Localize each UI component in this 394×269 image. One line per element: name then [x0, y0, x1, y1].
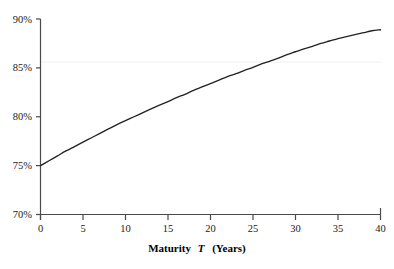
y-axis-tick-label: 90%: [13, 14, 33, 25]
series-line-curve: [41, 30, 381, 166]
y-axis-tick-label: 70%: [13, 209, 33, 220]
x-axis-title-lead: Maturity: [148, 242, 191, 254]
y-axis-group: 70%75%80%85%90%: [13, 14, 41, 221]
x-axis-title: Maturity T (Years): [148, 242, 246, 255]
y-axis-tick-label: 85%: [13, 62, 33, 73]
x-axis-tick-label: 25: [248, 223, 259, 234]
x-axis-ticks: [41, 215, 381, 221]
x-axis-tick-label: 35: [333, 223, 344, 234]
y-axis-tick-label: 80%: [13, 111, 33, 122]
chart-figure: 70%75%80%85%90% 0510152025303540 Maturit…: [0, 0, 394, 269]
x-axis-tick-label: 30: [290, 223, 301, 234]
x-axis-tick-label: 15: [163, 223, 174, 234]
y-axis-tick-labels: 70%75%80%85%90%: [13, 14, 33, 221]
chart-canvas: 70%75%80%85%90% 0510152025303540 Maturit…: [0, 0, 394, 269]
y-axis-ticks: [36, 19, 41, 215]
y-axis-tick-label: 75%: [13, 160, 33, 171]
x-axis-group: 0510152025303540: [36, 208, 386, 234]
x-axis-tick-label: 40: [375, 223, 386, 234]
x-axis-tick-labels: 0510152025303540: [38, 223, 386, 234]
x-axis-title-trail: (Years): [212, 242, 246, 255]
x-axis-tick-label: 5: [80, 223, 85, 234]
x-axis-title-group: Maturity T (Years): [148, 242, 246, 255]
data-series-group: [41, 30, 381, 166]
x-axis-tick-label: 0: [38, 223, 43, 234]
x-axis-tick-label: 20: [205, 223, 216, 234]
x-axis-tick-label: 10: [120, 223, 131, 234]
x-axis-title-symbol: T: [198, 242, 206, 254]
